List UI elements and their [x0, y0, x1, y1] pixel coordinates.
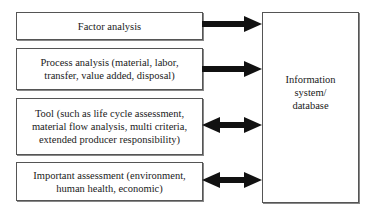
right-arrow-icon — [202, 61, 262, 77]
double-arrow-icon — [202, 117, 262, 133]
double-arrow-icon — [202, 172, 262, 188]
arrows — [0, 0, 373, 211]
right-arrow-icon — [202, 16, 262, 32]
